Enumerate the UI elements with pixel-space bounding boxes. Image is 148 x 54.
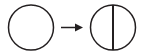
circle-transformation-diagram (0, 0, 148, 54)
diagram-canvas (0, 0, 148, 54)
transformation-arrow-group (61, 24, 83, 32)
arrow-head-icon (75, 24, 83, 32)
source-circle-group (9, 5, 54, 50)
result-circle-group (91, 5, 136, 50)
source-circle-icon (9, 5, 54, 50)
